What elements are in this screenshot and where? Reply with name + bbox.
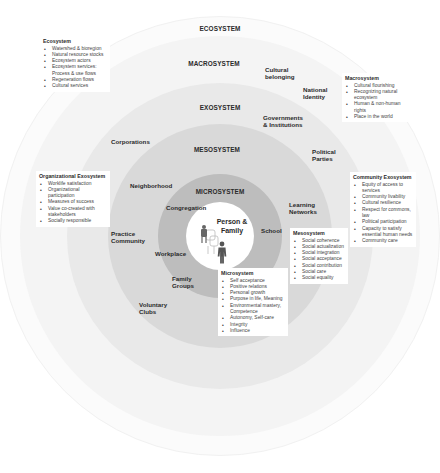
macrosystem-info-box: Macrosystem Cultural flourishing Recogni…: [342, 73, 408, 122]
list-item: Respect for commons, law: [362, 207, 413, 220]
community-exosystem-list: Equity of access to services Community l…: [353, 182, 413, 245]
mesosystem-box-title: Mesosystem: [293, 230, 345, 237]
macrosystem-box-title: Macrosystem: [345, 75, 405, 82]
organizational-exosystem-box-title: Organizational Exosystem: [39, 173, 107, 180]
macrosystem-title: MACROSYSTEM: [188, 60, 240, 67]
community-exosystem-info-box: Community Exosystem Equity of access to …: [350, 172, 416, 247]
label-workplace: Workplace: [155, 250, 186, 257]
microsystem-box-title: Microsystem: [221, 270, 285, 277]
list-item: Capacity to satisfy essential human need…: [362, 226, 413, 239]
list-item: Influence: [230, 328, 285, 334]
label-cultural-belonging: Cultural belonging: [265, 66, 295, 81]
label-family-groups: Family Groups: [172, 275, 194, 290]
list-item: Social equality: [302, 275, 345, 281]
people-family-icon: [196, 224, 248, 268]
microsystem-list: Self acceptance Positive relations Perso…: [221, 278, 285, 335]
list-item: Organizational participation: [48, 187, 107, 200]
mesosystem-info-box: Mesosystem Social coherence Social actua…: [290, 228, 348, 284]
list-item: Human & non-human rights: [354, 101, 405, 114]
list-item: Value co-created with stakeholders: [48, 206, 107, 219]
ecosystem-box-title: Ecosystem: [43, 38, 107, 45]
list-item: Environmental mastery, Competence: [230, 303, 285, 316]
mesosystem-title: MESOSYSTEM: [194, 146, 240, 153]
label-national-identity: National Identity: [303, 86, 327, 101]
community-exosystem-box-title: Community Exosystem: [353, 174, 413, 181]
ecosystem-info-box: Ecosystem Watershed & bioregion Natural …: [40, 36, 110, 92]
label-practice-community: Practice Community: [111, 230, 145, 245]
label-corporations: Corporations: [111, 138, 150, 145]
label-learning-networks: Learning Networks: [289, 201, 317, 216]
microsystem-title: MICROSYSTEM: [196, 188, 245, 195]
exosystem-title: EXOSYSTEM: [200, 104, 241, 111]
list-item: Community care: [362, 238, 413, 244]
list-item: Place in the world: [354, 114, 405, 120]
label-neighborhood: Neighborhood: [130, 182, 172, 189]
mesosystem-list: Social coherence Social actualization So…: [293, 238, 345, 282]
list-item: Socially responsible: [48, 218, 107, 224]
ecosystem-title: ECOSYSTEM: [199, 25, 240, 32]
microsystem-info-box: Microsystem Self acceptance Positive rel…: [218, 268, 288, 336]
list-item: Equity of access to services: [362, 182, 413, 195]
organizational-exosystem-list: Worklife satisfaction Organizational par…: [39, 181, 107, 225]
list-item: Ecosystem services: Process & use flows: [52, 64, 107, 77]
label-political-parties: Political Parties: [312, 148, 336, 163]
label-governments-institutions: Governments & Institutions: [263, 114, 303, 129]
label-congregation: Congregation: [166, 204, 206, 211]
macrosystem-list: Cultural flourishing Recognizing natural…: [345, 83, 405, 121]
ecosystem-list: Watershed & bioregion Natural resource s…: [43, 46, 107, 90]
label-voluntary-clubs: Voluntary Clubs: [139, 301, 167, 316]
list-item: Recognizing natural ecosystem: [354, 89, 405, 102]
list-item: Cultural services: [52, 83, 107, 89]
label-school: School: [261, 227, 282, 234]
organizational-exosystem-info-box: Organizational Exosystem Worklife satisf…: [36, 171, 110, 227]
